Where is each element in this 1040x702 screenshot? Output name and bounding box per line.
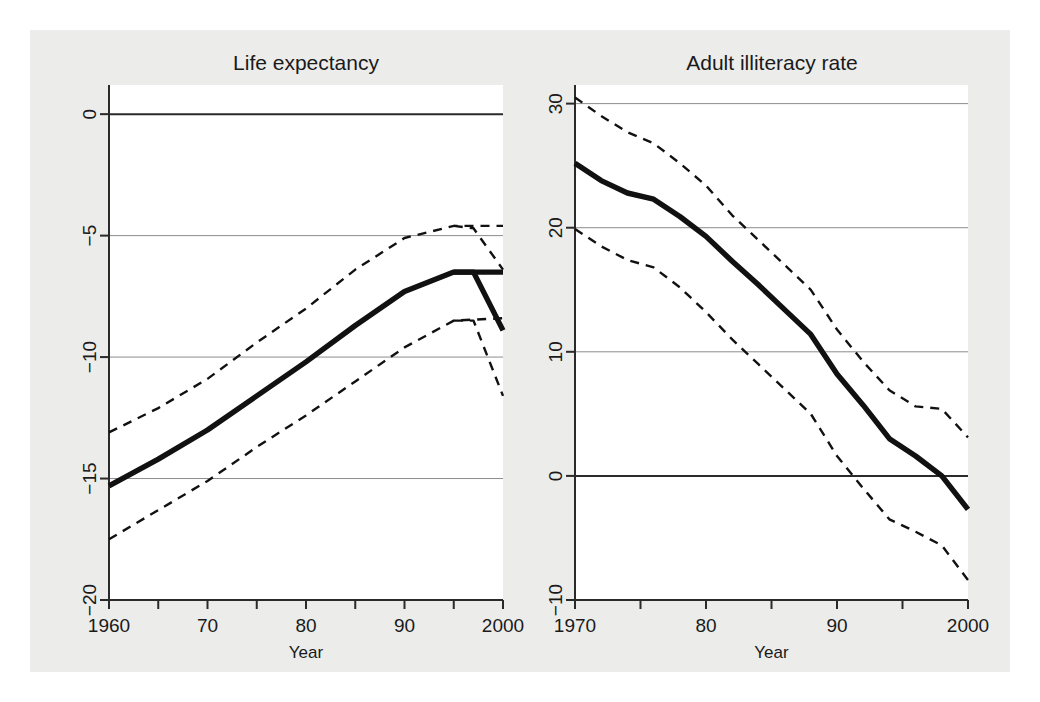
x-tick-label: 70	[197, 615, 218, 636]
y-tick-label: −5	[79, 225, 100, 247]
chart-canvas: 0−5−10−15−2019607080902000Life expectanc…	[0, 0, 1040, 702]
y-tick-label: 0	[545, 471, 566, 482]
panel-life-expectancy: 0−5−10−15−2019607080902000Life expectanc…	[79, 51, 524, 662]
x-tick-label: 80	[295, 615, 316, 636]
x-tick-label: 80	[695, 615, 716, 636]
panel-adult-illiteracy-rate: 3020100−10197080902000Adult illiteracy r…	[545, 51, 989, 662]
y-tick-label: −20	[79, 584, 100, 616]
x-axis-title: Year	[289, 643, 324, 662]
y-tick-label: 0	[79, 109, 100, 120]
y-tick-label: −15	[79, 462, 100, 494]
y-tick-label: 20	[545, 217, 566, 238]
y-tick-label: −10	[545, 584, 566, 616]
x-tick-label: 2000	[482, 615, 524, 636]
panel-title: Life expectancy	[233, 51, 379, 74]
y-tick-label: 30	[545, 93, 566, 114]
plot-area-background	[109, 85, 503, 600]
y-tick-label: 10	[545, 341, 566, 362]
panel-title: Adult illiteracy rate	[686, 51, 858, 74]
x-axis-title: Year	[754, 643, 789, 662]
figure-container: 0−5−10−15−2019607080902000Life expectanc…	[0, 0, 1040, 702]
plot-area-background	[575, 85, 968, 600]
x-tick-label: 1960	[88, 615, 130, 636]
x-tick-label: 90	[394, 615, 415, 636]
y-tick-label: −10	[79, 341, 100, 373]
x-tick-label: 1970	[554, 615, 596, 636]
x-tick-label: 90	[826, 615, 847, 636]
x-tick-label: 2000	[947, 615, 989, 636]
